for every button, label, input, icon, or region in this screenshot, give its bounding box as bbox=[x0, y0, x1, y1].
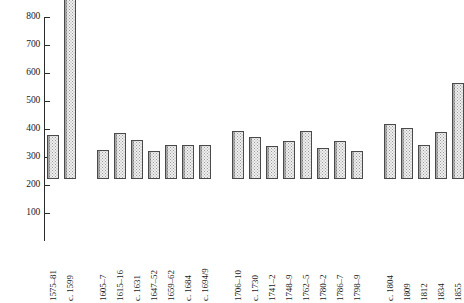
bar bbox=[182, 145, 194, 179]
x-axis-label-text: c. 1694/9 bbox=[199, 268, 211, 301]
x-axis-label-text: c. 1804 bbox=[384, 275, 396, 301]
x-axis-label: 1780–2 bbox=[317, 243, 329, 301]
bar bbox=[148, 151, 160, 179]
x-axis-label: 1809 bbox=[401, 243, 413, 301]
x-axis-label-text: 1798–9 bbox=[351, 275, 363, 301]
x-axis-label: 1855 bbox=[452, 243, 464, 301]
x-axis-label: c. 1804 bbox=[384, 243, 396, 301]
x-axis-label: 1748–9 bbox=[283, 243, 295, 301]
x-axis-label-text: 1615–16 bbox=[114, 270, 126, 301]
x-axis-label: c. 1599 bbox=[64, 243, 76, 301]
x-axis-label-text: 1706–10 bbox=[232, 270, 244, 301]
bar bbox=[114, 133, 126, 179]
bar bbox=[452, 83, 464, 179]
x-axis-label: c. 1631 bbox=[131, 243, 143, 301]
x-axis-label: 1706–10 bbox=[232, 243, 244, 301]
x-axis-label: 1575–81 bbox=[47, 243, 59, 301]
bar bbox=[131, 140, 143, 179]
x-axis-label-text: c. 1599 bbox=[64, 275, 76, 301]
bar bbox=[232, 131, 244, 179]
x-axis-label: 1615–16 bbox=[114, 243, 126, 301]
bar bbox=[351, 151, 363, 179]
x-axis-label-text: 1809 bbox=[401, 283, 413, 301]
x-axis-label-text: 1812 bbox=[418, 283, 430, 301]
x-axis-label: 1605–7 bbox=[97, 243, 109, 301]
x-axis-label-text: 1780–2 bbox=[317, 275, 329, 301]
bar bbox=[317, 148, 329, 179]
bar bbox=[334, 141, 346, 179]
bar bbox=[47, 135, 59, 179]
bar bbox=[300, 131, 312, 179]
bar bbox=[266, 146, 278, 179]
x-axis-label: 1647–52 bbox=[148, 243, 160, 301]
x-axis-label-text: 1647–52 bbox=[148, 270, 160, 301]
x-axis-label: c. 1684 bbox=[182, 243, 194, 301]
x-axis-label-text: 1855 bbox=[452, 283, 464, 301]
bar bbox=[199, 145, 211, 179]
x-axis-label: c. 1730 bbox=[249, 243, 261, 301]
x-axis-label-text: c. 1730 bbox=[249, 275, 261, 301]
x-axis-label: 1812 bbox=[418, 243, 430, 301]
bar bbox=[64, 0, 76, 179]
x-axis-label-text: 1748–9 bbox=[283, 275, 295, 301]
bar bbox=[384, 124, 396, 179]
x-axis-label: 1659–62 bbox=[165, 243, 177, 301]
bar bbox=[165, 145, 177, 179]
x-axis-label: 1786–7 bbox=[334, 243, 346, 301]
x-axis-label-text: c. 1684 bbox=[182, 275, 194, 301]
x-axis-label: 1741–2 bbox=[266, 243, 278, 301]
x-axis-label-text: c. 1631 bbox=[131, 275, 143, 301]
x-axis-label-text: 1659–62 bbox=[165, 270, 177, 301]
x-axis-label: 1834 bbox=[435, 243, 447, 301]
x-axis-label: c. 1694/9 bbox=[199, 243, 211, 301]
x-axis-label-text: 1834 bbox=[435, 283, 447, 301]
bar bbox=[97, 150, 109, 179]
x-axis-label-text: 1741–2 bbox=[266, 275, 278, 301]
x-axis-label-text: 1605–7 bbox=[97, 275, 109, 301]
bar bbox=[435, 132, 447, 179]
x-axis-label-text: 1786–7 bbox=[334, 275, 346, 301]
x-axis-label-text: 1575–81 bbox=[47, 270, 59, 301]
bar bbox=[401, 128, 413, 179]
bar bbox=[249, 137, 261, 179]
bar bbox=[418, 145, 430, 179]
x-axis-label: 1798–9 bbox=[351, 243, 363, 301]
plot-area bbox=[0, 0, 422, 241]
bar bbox=[283, 141, 295, 179]
x-axis-label: 1762–5 bbox=[300, 243, 312, 301]
x-axis-label-text: 1762–5 bbox=[300, 275, 312, 301]
